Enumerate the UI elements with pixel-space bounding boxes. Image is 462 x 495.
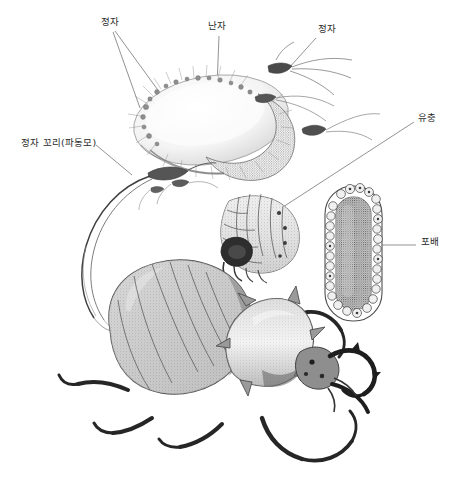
larva-body [221, 194, 300, 283]
label-blastula: 포배 [421, 237, 439, 248]
illustration-figure: 정자 난자 정자 정자 꼬리(파동모) 유충 포배 [0, 0, 462, 495]
blastula-body [325, 184, 382, 322]
label-sperm-tail: 정자 꼬리(파동모) [21, 138, 96, 149]
label-larva: 유충 [418, 113, 436, 124]
sperm-cell-3 [302, 114, 380, 140]
leader-sperm-left-b [115, 31, 160, 93]
label-sperm-right: 정자 [318, 24, 336, 35]
sperm-cell-4 [157, 180, 218, 204]
sperm-cell-5 [139, 187, 164, 210]
leader-sperm-tail [96, 145, 132, 175]
diagram-artwork [0, 0, 462, 495]
label-ovum: 난자 [208, 21, 226, 32]
sperm-cell-1 [268, 42, 352, 95]
label-sperm-left: 정자 [101, 17, 119, 28]
